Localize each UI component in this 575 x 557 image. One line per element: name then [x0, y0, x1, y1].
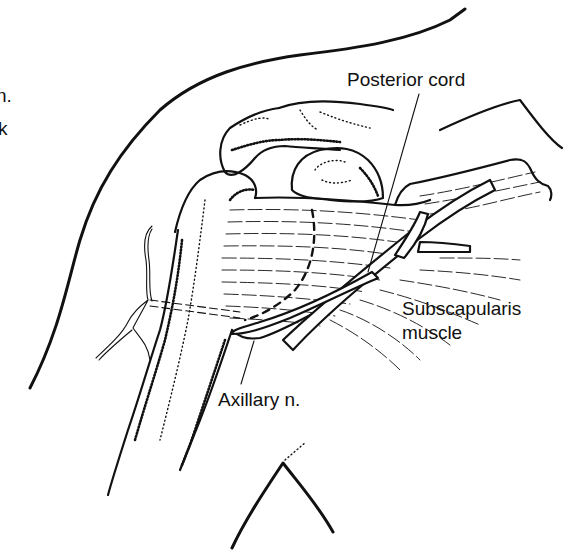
coracoid-detail [315, 160, 352, 183]
label-axillary-nerve: Axillary n. [218, 389, 300, 411]
humerus-outline [175, 171, 256, 232]
cropped-text-fragment: n. [0, 85, 12, 107]
nerve-branch-lower [418, 242, 470, 252]
humerus-shade-mid [160, 200, 205, 440]
acromion-outline [220, 108, 340, 175]
cutaneous-nerve [96, 226, 152, 360]
humerus-left-edge [108, 230, 178, 495]
label-posterior-cord: Posterior cord [347, 69, 465, 91]
anatomy-illustration [0, 0, 575, 557]
label-subscapularis-line2: muscle [402, 322, 462, 344]
coracoid-shade [360, 168, 378, 196]
label-subscapularis-line1: Subscapularis [402, 298, 521, 320]
scapula-upper-border [440, 100, 562, 148]
humerus-head-shade [230, 189, 255, 200]
axillary-leader [241, 341, 254, 384]
axilla-dots [285, 442, 306, 460]
cropped-text-fragment: k [0, 118, 8, 140]
axilla-outline [232, 463, 333, 548]
muscle-fibers [222, 172, 540, 370]
incision-line [245, 210, 314, 320]
posterior-cord-nerve [283, 180, 495, 350]
clavicle-outline [279, 101, 393, 110]
coracoid-outline [292, 148, 383, 202]
